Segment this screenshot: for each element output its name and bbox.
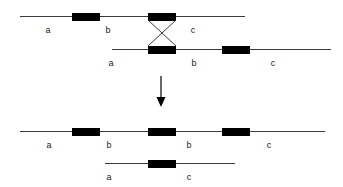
crossover-x-icon [148,20,176,46]
downward-arrow-icon [154,76,168,110]
marker-box-1 [148,160,176,168]
arrow-head [157,97,166,107]
segment-label-a: a [102,172,116,182]
crossover-diagram: abcabcabbcac [0,0,343,187]
segment-label-c: c [182,172,196,182]
